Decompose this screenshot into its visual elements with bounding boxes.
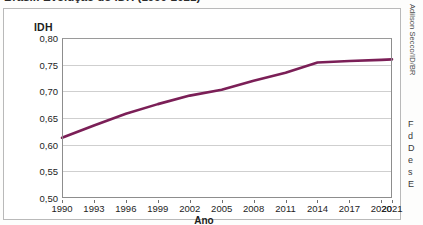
y-axis-tick-label: 0,70 (24, 86, 58, 97)
x-axis-tick-label: 2002 (179, 203, 200, 214)
x-axis-tick-label: 2014 (307, 203, 328, 214)
y-axis-tick-label: 0,65 (24, 113, 58, 124)
plot-area (62, 38, 392, 198)
y-axis-tick-label: 0,75 (24, 59, 58, 70)
y-axis-tick-label: 0,55 (24, 166, 58, 177)
y-axis-tick-label: 0,50 (24, 193, 58, 204)
figure-caption-strip: Brasil: Evolução do IDH (1990-2021) (0, 0, 423, 7)
chart-figure: IDH 0,800,750,700,650,600,550,50 1990199… (3, 8, 401, 220)
figure-caption: Brasil: Evolução do IDH (1990-2021) (4, 0, 200, 3)
adjacent-column-text: FdDesE (408, 118, 423, 218)
x-axis-tick-label: 2008 (243, 203, 264, 214)
x-axis-tick-label: 1990 (51, 203, 72, 214)
adjacent-column-line: D (408, 142, 423, 154)
adjacent-column-line: F (408, 118, 423, 130)
x-axis-tick-label: 2005 (211, 203, 232, 214)
x-axis-tick-label: 2021 (381, 203, 402, 214)
x-axis-tick-label: 1999 (147, 203, 168, 214)
adjacent-column-line: e (408, 154, 423, 166)
x-axis-title: Ano (4, 215, 404, 225)
y-axis-tick-labels: 0,800,750,700,650,600,550,50 (20, 38, 58, 198)
x-axis-tick-labels: 1990199319961999200220052008201120142017… (62, 200, 392, 216)
y-axis-tick-label: 0,60 (24, 139, 58, 150)
adjacent-column-line: d (408, 130, 423, 142)
y-axis-tick-label: 0,80 (24, 33, 58, 44)
x-axis-tick-label: 2017 (339, 203, 360, 214)
image-credit: Adilson Secco/ID/BR (408, 4, 417, 76)
image-credit-wrapper: Adilson Secco/ID/BR (404, 4, 420, 112)
adjacent-column-line: s (408, 166, 423, 178)
x-axis-tick-label: 2011 (275, 203, 295, 214)
x-axis-tick-label: 1993 (83, 203, 104, 214)
x-axis-tick-label: 1996 (115, 203, 136, 214)
adjacent-column-line: E (408, 178, 423, 190)
y-axis-title: IDH (34, 21, 53, 33)
idh-line-series (62, 38, 392, 198)
